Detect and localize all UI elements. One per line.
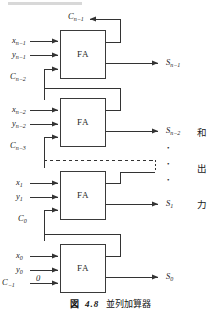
label-sum-1-sub: 1 [170,203,173,209]
label-x-1: x1 [16,178,23,187]
fa-block-n-2-label: FA [60,117,106,127]
label-sum-n-1: Sn−1 [166,58,180,67]
label-carry-in-n-1-base: C [10,71,16,81]
label-carry-in-n-2-sub: n−3 [16,145,26,151]
label-x-n-1-sub: n−1 [16,40,26,46]
ellipsis-dot-1: • [167,145,169,152]
fa-block-1-label: FA [60,190,106,200]
wire-carry-in-n-1 [44,69,58,100]
label-y-0: y0 [16,265,23,274]
label-x-n-2: xn−2 [12,105,26,114]
label-y-0-sub: 0 [20,269,23,275]
label-sum-n-2: Sn−2 [166,126,180,135]
ellipsis-dot-3: • [167,177,169,184]
label-carry-in-n-1-sub: n−2 [16,76,26,82]
side-label-char-wa: 和 [197,125,207,139]
fa-block-n-1-label: FA [60,49,106,59]
wire-carry-in-n-2 [44,137,58,168]
side-label-char-ryoku: 力 [197,197,207,211]
label-carry-in-n-2-base: C [10,140,16,150]
label-sum-1: S1 [166,199,173,208]
label-carry-out-n-1-base: C [68,11,74,21]
label-sum-0: S0 [166,272,173,281]
ellipsis-dot-2: • [167,161,169,168]
diagram-canvas [0,0,221,324]
label-y-1: y1 [16,192,23,201]
label-carry-in-0: C−1 [2,278,15,287]
label-carry-in-n-2: Cn−3 [10,141,26,150]
label-y-n-1-sub: n−1 [16,54,26,60]
label-x-n-1: xn−1 [12,36,26,45]
caption-fig-title: 並列加算器 [106,299,151,309]
label-y-n-1: yn−1 [12,50,26,59]
label-x-1-sub: 1 [20,182,23,188]
label-y-n-2: yn−2 [12,119,26,128]
label-carry-in-1: C0 [18,214,27,223]
label-carry-in-1-base: C [18,213,24,223]
wire-carry-out-1 [106,172,156,183]
parallel-adder-diagram: FA FA FA FA xn−1 yn−1 Cn−2 Cn−1 Sn−1 xn−… [0,0,221,324]
label-carry-in-0-base: C [2,277,8,287]
label-carry-in-0-value: 0 [36,274,40,283]
label-carry-out-n-1-sub: n−1 [74,16,84,22]
label-carry-in-1-sub: 0 [24,218,27,224]
fa-block-0-label: FA [60,263,106,273]
label-x-n-2-sub: n−2 [16,109,26,115]
label-x-0: x0 [16,251,23,260]
caption-fig-word: 図 [70,299,79,309]
label-sum-n-2-sub: n−2 [170,130,180,136]
label-sum-0-sub: 0 [170,276,173,282]
label-y-n-2-sub: n−2 [16,123,26,129]
label-sum-n-1-sub: n−1 [170,62,180,68]
wire-carry-in-1 [44,210,58,241]
label-carry-in-0-sub: −1 [8,282,15,288]
label-carry-out-n-1: Cn−1 [68,12,84,21]
label-x-0-sub: 0 [20,255,23,261]
label-carry-in-n-1: Cn−2 [10,72,26,81]
figure-caption: 図4.8並列加算器 [0,297,221,310]
label-y-1-sub: 1 [20,196,23,202]
caption-fig-number: 4.8 [85,299,99,309]
side-label-char-shutsu: 出 [197,161,207,175]
